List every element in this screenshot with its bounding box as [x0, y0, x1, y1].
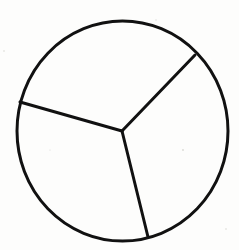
spoke-left [20, 102, 122, 131]
spoke-upper-right [122, 55, 195, 131]
sector-diagram [0, 0, 239, 250]
spoke-bottom [122, 131, 148, 237]
